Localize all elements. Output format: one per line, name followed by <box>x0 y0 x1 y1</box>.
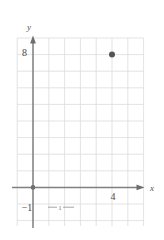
x-axis-label: x <box>149 183 154 193</box>
x-tick-label-4: 4 <box>111 191 116 202</box>
grid-lines <box>17 38 143 226</box>
y-tick-label-8: 8 <box>22 47 27 58</box>
origin-dot <box>31 185 36 190</box>
x-tick-marker-1: 1 <box>48 204 74 212</box>
grid-lines-vertical <box>17 38 143 226</box>
data-point-group <box>109 52 115 58</box>
x-tick-label-1: 1 <box>58 204 62 212</box>
data-point-marker <box>109 52 115 58</box>
x-tick-label-negative-1: −1 <box>22 202 33 213</box>
axes <box>12 36 145 229</box>
coordinate-plane-svg: y x 8 4 −1 1 <box>0 0 164 240</box>
y-axis-arrowhead <box>30 36 36 44</box>
graph-figure: y x 8 4 −1 1 <box>0 0 164 240</box>
y-axis-label: y <box>26 22 31 32</box>
